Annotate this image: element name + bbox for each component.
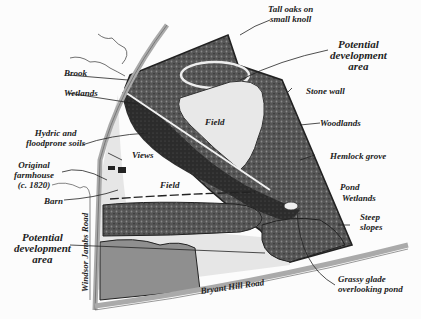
- barn: [118, 167, 126, 173]
- label-views: Views: [132, 150, 154, 160]
- label-grassy-glade: Grassy gladeoverlooking pond: [338, 274, 403, 294]
- label-potential-development-top: Potentialdevelopmentarea: [330, 39, 387, 72]
- label-field-lower: Field: [160, 180, 180, 190]
- woodland-lower: [103, 202, 262, 236]
- label-stone-wall: Stone wall: [306, 86, 345, 96]
- label-barn: Barn: [44, 196, 63, 206]
- label-windsor-jambs-road: Windsor Jambs Road: [80, 213, 90, 292]
- label-original-farmhouse: Originalfarmhouse(c. 1820): [14, 160, 54, 190]
- farmhouse: [108, 166, 115, 170]
- label-potential-development-left: Potentialdevelopmentarea: [14, 232, 71, 265]
- label-hydric-soils: Hydric andfloodprone soils: [26, 128, 85, 148]
- label-hemlock-grove: Hemlock grove: [330, 151, 386, 161]
- pond: [284, 202, 298, 210]
- label-wetlands-left: Wetlands: [64, 88, 98, 98]
- label-wetlands-right: Wetlands: [342, 193, 376, 203]
- site-plan-map: Tall oaks onsmall knoll Potentialdevelop…: [0, 0, 421, 319]
- label-woodlands: Woodlands: [320, 118, 361, 128]
- label-pond: Pond: [340, 182, 360, 192]
- label-field-upper: Field: [205, 117, 225, 127]
- label-steep-slopes: Steepslopes: [360, 212, 383, 232]
- label-tall-oaks: Tall oaks onsmall knoll: [268, 4, 313, 24]
- label-brook: Brook: [64, 68, 87, 78]
